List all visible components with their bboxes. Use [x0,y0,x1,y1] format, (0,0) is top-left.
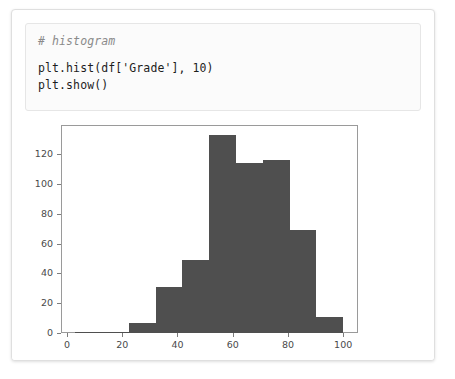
x-tick-label: 20 [107,339,137,350]
histogram-chart: 020406080100120 020406080100 [12,113,435,361]
y-tick-label: 80 [41,209,53,219]
y-tick-label: 120 [35,149,53,159]
y-tick-mark [57,273,61,274]
figure-output: 020406080100120 020406080100 [12,113,435,361]
y-tick-label: 40 [41,268,53,278]
x-tick-label: 60 [218,339,248,350]
y-tick-mark [57,214,61,215]
histogram-bar [263,160,290,333]
x-tick-label: 80 [273,339,303,350]
histogram-bar [129,323,156,333]
x-tick-mark [122,333,123,337]
y-tick-label: 0 [47,328,53,338]
histogram-bar [102,332,129,333]
y-tick-mark [57,333,61,334]
x-tick-mark [343,333,344,337]
histogram-bar [156,287,183,333]
histogram-bar [75,332,102,333]
x-tick-mark [67,333,68,337]
code-line-comment: # histogram [38,33,408,50]
x-tick-label: 0 [52,339,82,350]
notebook-output-card: # histogram plt.hist(df['Grade'], 10) pl… [11,9,435,361]
x-tick-label: 40 [162,339,192,350]
histogram-bar [316,317,343,333]
code-line-show: plt.show() [38,77,408,94]
y-tick-mark [57,244,61,245]
y-tick-label: 20 [41,298,53,308]
x-tick-mark [177,333,178,337]
code-cell[interactable]: # histogram plt.hist(df['Grade'], 10) pl… [25,23,421,111]
x-tick-mark [288,333,289,337]
code-line-blank [38,50,408,60]
histogram-bar [236,163,263,333]
x-tick-mark [233,333,234,337]
y-tick-mark [57,184,61,185]
y-tick-label: 60 [41,239,53,249]
histogram-bar [209,135,236,333]
y-tick-mark [57,154,61,155]
y-tick-label: 100 [35,179,53,189]
histogram-bars [62,126,357,333]
x-tick-label: 100 [328,339,358,350]
y-tick-mark [57,303,61,304]
histogram-bar [182,260,209,333]
histogram-bar [290,230,317,333]
code-line-hist: plt.hist(df['Grade'], 10) [38,60,408,77]
